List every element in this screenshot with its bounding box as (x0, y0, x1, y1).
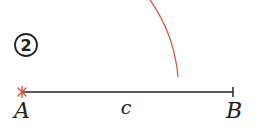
point-a-label: A (12, 98, 30, 123)
step-number: 2 (20, 36, 31, 55)
length-c-label: c (121, 96, 132, 118)
step-badge: 2 (15, 34, 37, 56)
construction-diagram: 2 A c B (0, 0, 260, 134)
construction-arc (150, 0, 178, 77)
point-b-label: B (225, 98, 242, 123)
